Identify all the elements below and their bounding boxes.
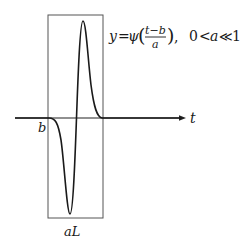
condition-a: a [210, 28, 218, 44]
axis-label-t: t [190, 110, 196, 126]
condition-zero: 0 [189, 28, 198, 44]
condition-lt: < [199, 28, 211, 44]
formula-comma: , [174, 29, 178, 45]
support-box [48, 15, 103, 218]
width-label-aL: aL [64, 224, 80, 239]
formula-lhs: y [108, 28, 118, 44]
formula-numerator: t−b [145, 24, 166, 37]
wavelet-diagram: t b aL y = ψ ( t−b a ) , 0 < a ≪ 1 [0, 0, 245, 248]
condition-ll: ≪ [219, 29, 233, 44]
shift-label-b: b [38, 120, 46, 135]
wavelet-formula: y = ψ ( t−b a ) , 0 < a ≪ 1 [108, 24, 241, 51]
condition-one: 1 [232, 28, 241, 44]
formula-denominator: a [152, 38, 159, 51]
